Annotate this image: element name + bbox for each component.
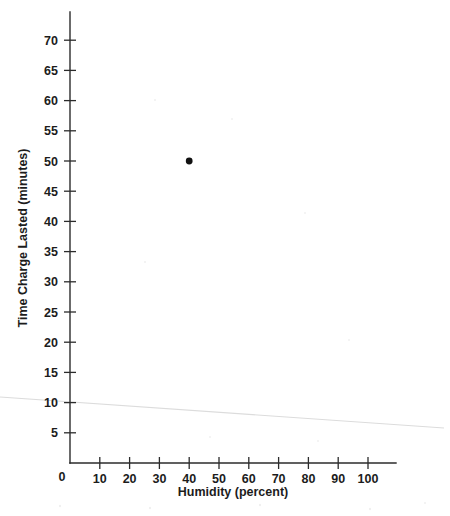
- x-tick-label-100: 100: [358, 472, 379, 486]
- x-tick-label-40: 40: [182, 472, 196, 486]
- x-axis-ticks: 102030405060708090100: [93, 457, 379, 486]
- x-tick-label-70: 70: [272, 472, 286, 486]
- y-tick-label-10: 10: [44, 396, 58, 410]
- y-tick-label-30: 30: [44, 275, 58, 289]
- x-tick-label-20: 20: [123, 472, 137, 486]
- faint-trend-line: [0, 397, 444, 428]
- y-tick-label-25: 25: [44, 306, 58, 320]
- y-tick-label-5: 5: [51, 426, 58, 440]
- chart-canvas: 510152025303540455055606570 102030405060…: [0, 0, 450, 516]
- x-axis-title: Humidity (percent): [178, 485, 288, 499]
- y-tick-label-70: 70: [44, 34, 58, 48]
- y-tick-label-35: 35: [44, 245, 58, 259]
- y-tick-label-40: 40: [44, 215, 58, 229]
- x-tick-label-60: 60: [242, 472, 256, 486]
- y-tick-label-45: 45: [44, 185, 58, 199]
- y-axis-ticks: 510152025303540455055606570: [44, 34, 76, 441]
- y-tick-label-50: 50: [44, 155, 58, 169]
- faint-trend-line: [0, 397, 444, 428]
- x-tick-label-90: 90: [331, 472, 345, 486]
- y-tick-label-55: 55: [44, 124, 58, 138]
- x-tick-label-80: 80: [301, 472, 315, 486]
- scatter-chart: 510152025303540455055606570 102030405060…: [0, 0, 450, 516]
- y-tick-label-20: 20: [44, 336, 58, 350]
- y-axis-title: Time Charge Lasted (minutes): [16, 149, 30, 328]
- y-tick-label-15: 15: [44, 366, 58, 380]
- scan-noise: [59, 99, 426, 510]
- x-tick-label-10: 10: [93, 472, 107, 486]
- data-point: [186, 158, 193, 165]
- x-tick-label-50: 50: [212, 472, 226, 486]
- origin-tick-label: 0: [59, 470, 66, 484]
- x-tick-label-30: 30: [152, 472, 166, 486]
- y-tick-label-60: 60: [44, 94, 58, 108]
- data-series-points: [186, 158, 193, 165]
- y-tick-label-65: 65: [44, 64, 58, 78]
